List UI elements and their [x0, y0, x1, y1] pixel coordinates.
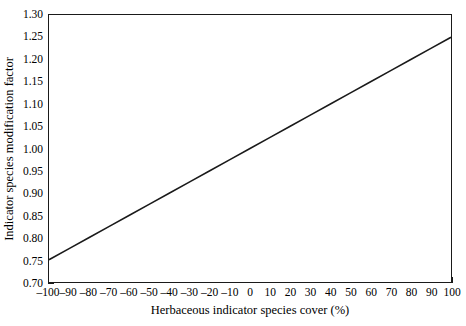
- y-tick-label: 0.95: [0, 165, 43, 177]
- y-tick-label: 0.90: [0, 187, 43, 199]
- y-tick-label: 1.05: [0, 120, 43, 132]
- y-tick-label: 0.85: [0, 210, 43, 222]
- y-tick-label: 1.25: [0, 30, 43, 42]
- y-tick-label: 1.15: [0, 75, 43, 87]
- y-tick-label: 1.00: [0, 143, 43, 155]
- x-axis-title: Herbaceous indicator species cover (%): [48, 303, 452, 317]
- plot-area: [48, 14, 452, 283]
- y-tick-label: 1.20: [0, 53, 43, 65]
- y-tick-label: 0.80: [0, 232, 43, 244]
- x-tick-mark: [452, 277, 453, 283]
- y-tick-label: 0.75: [0, 255, 43, 267]
- chart-figure: Indicator species modification factor 0.…: [0, 0, 466, 326]
- y-tick-label: 1.10: [0, 98, 43, 110]
- y-tick-mark: [48, 283, 54, 284]
- plot-line-svg: [49, 15, 451, 282]
- x-tick-label: 100: [432, 286, 466, 298]
- y-tick-label: 1.30: [0, 8, 43, 20]
- data-series-line: [49, 37, 451, 259]
